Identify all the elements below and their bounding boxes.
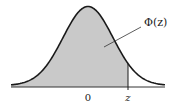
z-tick-label: z [124, 92, 131, 103]
normal-distribution-diagram: Φ(z) 0 z [0, 0, 180, 107]
origin-tick-label: 0 [85, 92, 91, 103]
shaded-area-phi-z [11, 7, 128, 88]
phi-z-label: Φ(z) [144, 16, 167, 29]
